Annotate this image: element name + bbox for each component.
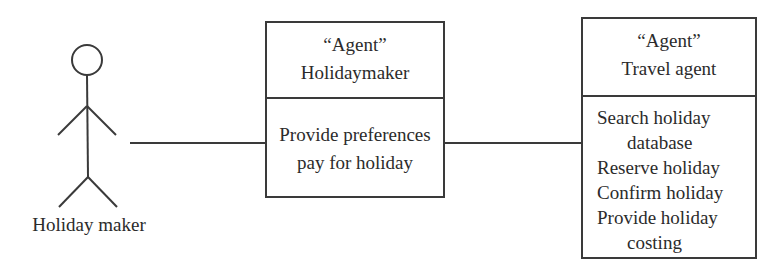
agent-box-travel-agent: “Agent” Travel agent Search holiday data… bbox=[581, 17, 757, 259]
responsibility-item: pay for holiday bbox=[267, 149, 443, 177]
agent-responsibilities: Search holiday database Reserve holiday … bbox=[583, 97, 755, 255]
stick-figure-icon bbox=[58, 45, 117, 207]
responsibility-item: Provide holiday bbox=[597, 205, 755, 230]
responsibility-item-continuation: database bbox=[597, 130, 755, 155]
agent-box-holidaymaker: “Agent” Holidaymaker Provide preferences… bbox=[265, 21, 445, 198]
responsibility-item: Provide preferences bbox=[267, 121, 443, 149]
responsibility-item: Search holiday bbox=[597, 105, 755, 130]
responsibility-item: Confirm holiday bbox=[597, 180, 755, 205]
agent-responsibilities: Provide preferences pay for holiday bbox=[267, 99, 443, 177]
agent-diagram: Holiday maker “Agent” Holidaymaker Provi… bbox=[0, 0, 778, 272]
responsibility-item: Reserve holiday bbox=[597, 155, 755, 180]
agent-name: Travel agent bbox=[583, 55, 755, 83]
agent-stereotype: “Agent” bbox=[267, 31, 443, 59]
responsibility-item-continuation: costing bbox=[597, 230, 755, 255]
agent-header: “Agent” Travel agent bbox=[583, 19, 755, 97]
agent-stereotype: “Agent” bbox=[583, 27, 755, 55]
agent-name: Holidaymaker bbox=[267, 59, 443, 87]
actor-label: Holiday maker bbox=[24, 214, 154, 236]
agent-header: “Agent” Holidaymaker bbox=[267, 23, 443, 99]
